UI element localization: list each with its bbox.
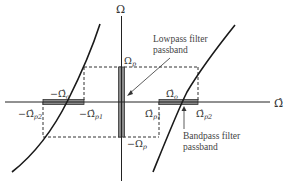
neg-omega-o-label: −Ω̂o	[50, 88, 70, 101]
omega-p-label: Ωp	[124, 55, 137, 68]
neg-omega-p1-label: −Ω̂p1	[79, 108, 103, 121]
frequency-transformation-diagram: Ω Ω̂ Ωp −Ωp Ω̂o −Ω̂o Ω̂p1 Ω̂p2 −Ω̂p1 −Ω̂…	[0, 0, 289, 185]
vertical-axis-label: Ω	[116, 3, 125, 16]
horizontal-axis-label: Ω̂	[274, 97, 283, 110]
omega-o-label: Ω̂o	[166, 88, 178, 101]
bandpass-annotation-arrowhead	[182, 106, 187, 111]
omega-p2-label: Ω̂p2	[196, 108, 212, 121]
lowpass-annotation-line2: passband	[153, 45, 188, 55]
bandpass-annotation-line1: Bandpass filter	[183, 131, 241, 141]
neg-omega-p-label: −Ωp	[127, 138, 148, 151]
bandpass-annotation-line2: passband	[183, 142, 218, 152]
lowpass-annotation-line1: Lowpass filter	[153, 34, 208, 44]
neg-omega-p2-label: −Ω̂p2	[18, 108, 42, 121]
